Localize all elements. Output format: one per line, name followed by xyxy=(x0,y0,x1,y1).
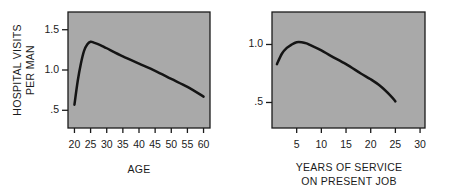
two-panel-line-chart: 202530354045505560 .51.01.5 AGE HOSPITAL… xyxy=(0,0,458,193)
right-plot-background xyxy=(272,12,425,128)
x-tick-label: 25 xyxy=(85,138,97,150)
left-panel: 202530354045505560 .51.01.5 AGE HOSPITAL… xyxy=(11,12,210,175)
x-tick-label: 20 xyxy=(69,138,81,150)
y-tick-label: 1.0 xyxy=(44,63,59,75)
x-tick-label: 30 xyxy=(414,138,426,150)
y-tick-label: .5 xyxy=(254,95,263,107)
x-tick-label: 35 xyxy=(117,138,129,150)
right-x-axis-title-line1: YEARS OF SERVICE xyxy=(296,161,403,173)
right-x-tick-labels: 51015202530 xyxy=(294,138,426,150)
left-x-tick-marks xyxy=(74,128,203,133)
left-plot-background xyxy=(68,12,210,128)
left-y-axis-title-line2: PER MAN xyxy=(24,45,36,95)
right-panel: 51015202530 .51.0 YEARS OF SERVICE ON PR… xyxy=(248,12,426,187)
x-tick-label: 10 xyxy=(316,138,328,150)
x-tick-label: 40 xyxy=(133,138,145,150)
right-x-axis-title-line2: ON PRESENT JOB xyxy=(301,175,397,187)
y-tick-label: .5 xyxy=(50,103,59,115)
left-x-axis-title: AGE xyxy=(127,163,150,175)
right-y-tick-labels: .51.0 xyxy=(248,37,263,107)
x-tick-label: 30 xyxy=(101,138,113,150)
x-tick-label: 25 xyxy=(390,138,402,150)
x-tick-label: 60 xyxy=(198,138,210,150)
left-y-tick-marks xyxy=(62,30,68,111)
left-y-axis-title-line1: HOSPITAL VISITS xyxy=(11,24,23,115)
x-tick-label: 45 xyxy=(149,138,161,150)
x-tick-label: 20 xyxy=(365,138,377,150)
x-tick-label: 50 xyxy=(165,138,177,150)
x-tick-label: 5 xyxy=(294,138,300,150)
left-y-axis-title: HOSPITAL VISITS PER MAN xyxy=(11,24,36,115)
left-x-tick-labels: 202530354045505560 xyxy=(69,138,210,150)
y-tick-label: 1.0 xyxy=(248,37,263,49)
right-x-tick-marks xyxy=(297,128,420,133)
left-y-tick-labels: .51.01.5 xyxy=(44,23,59,116)
figure-container: 202530354045505560 .51.01.5 AGE HOSPITAL… xyxy=(0,0,458,193)
y-tick-label: 1.5 xyxy=(44,23,59,35)
x-tick-label: 15 xyxy=(340,138,352,150)
x-tick-label: 55 xyxy=(182,138,194,150)
right-y-tick-marks xyxy=(266,44,272,102)
